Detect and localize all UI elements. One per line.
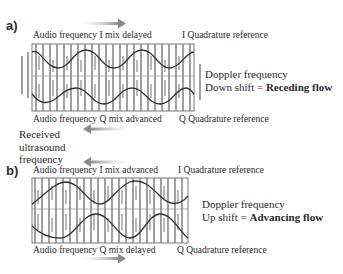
received-line1: Received (19, 128, 65, 141)
panel-b-doppler-line1: Doppler frequency (202, 198, 323, 211)
panel-a-top-caption: Audio frequency I mix delayed (33, 30, 152, 40)
panel-a-doppler-text: Doppler frequency Down shift = Receding … (205, 68, 332, 94)
panel-a-doppler-line2: Down shift = Receding flow (205, 81, 332, 94)
doppler-prefix: Up shift = (202, 211, 249, 223)
doppler-result: Receding flow (266, 81, 332, 93)
panel-b-bottom-caption: Audio frequency Q mix delayed (33, 245, 155, 255)
panel-b-label: b) (6, 163, 18, 178)
panel-a-label: a) (6, 18, 18, 33)
arrow-right-icon (82, 19, 126, 29)
panel-b-bottom-reference: Q Quadrature reference (177, 245, 267, 255)
arrow-right-icon (82, 254, 126, 264)
panel-a-doppler-line1: Doppler frequency (205, 68, 332, 81)
doppler-prefix: Down shift = (205, 81, 266, 93)
panel-b-doppler-line2: Up shift = Advancing flow (202, 211, 323, 224)
received-frequency-label: Received ultrasound frequency (19, 128, 65, 166)
arrow-left-icon (83, 124, 130, 134)
panel-a-top-reference: I Quadrature reference (182, 30, 268, 40)
panel-b-waveform (32, 178, 188, 243)
panel-b-top-caption: Audio frequency I mix advanced (33, 165, 158, 175)
panel-b-doppler-text: Doppler frequency Up shift = Advancing f… (202, 198, 323, 224)
received-line3: frequency (19, 153, 65, 166)
received-line2: ultrasound (19, 141, 65, 154)
doppler-result: Advancing flow (249, 211, 323, 223)
panel-a-bottom-reference: Q Quadrature reference (179, 114, 269, 124)
panel-a-waveform (22, 44, 200, 111)
panel-b-top-reference: I Quadrature reference (178, 165, 264, 175)
panel-a-bottom-caption: Audio frequency Q mix advanced (33, 114, 162, 124)
